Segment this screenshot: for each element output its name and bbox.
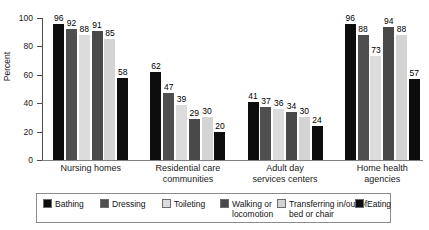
bar: [260, 107, 271, 160]
bar-value-label: 96: [340, 14, 361, 23]
chart-legend: BathingDressingToiletingWalking or locom…: [36, 193, 391, 223]
bar: [214, 132, 225, 160]
bar: [163, 93, 174, 160]
legend-swatch: [43, 199, 52, 208]
legend-item[interactable]: Dressing: [100, 199, 146, 209]
y-axis-tick: [37, 160, 42, 161]
bar: [370, 56, 381, 160]
bar-value-label: 58: [112, 68, 133, 77]
y-axis-tick-label: 100: [5, 14, 33, 22]
bar-value-label: 39: [171, 95, 192, 104]
bar-value-label: 30: [197, 107, 218, 116]
legend-swatch: [220, 199, 229, 208]
x-axis-category-label: Residential care communities: [133, 163, 243, 185]
bar: [79, 35, 90, 160]
legend-label: Eating: [367, 199, 391, 209]
bar: [286, 112, 297, 160]
x-axis-category-label: Nursing homes: [36, 163, 146, 174]
x-axis-category-label: Home health agencies: [327, 163, 429, 185]
legend-swatch: [162, 199, 171, 208]
legend-swatch: [100, 199, 109, 208]
bar: [248, 102, 259, 160]
bar: [66, 29, 77, 160]
legend-label: Toileting: [174, 199, 205, 209]
bar: [104, 39, 115, 160]
bar: [273, 109, 284, 160]
legend-item[interactable]: Walking or locomotion: [220, 199, 273, 219]
bar: [345, 24, 356, 160]
legend-label: Walking or locomotion: [232, 199, 273, 219]
bar: [117, 78, 128, 160]
bar-value-label: 62: [145, 62, 166, 71]
legend-label: Bathing: [55, 199, 84, 209]
bar-value-label: 85: [99, 29, 120, 38]
bar: [92, 31, 103, 160]
y-axis-tick-label: 20: [5, 128, 33, 136]
plot-area: 9692889185586247392930204137363430249688…: [42, 18, 423, 160]
bar: [189, 119, 200, 160]
legend-swatch: [277, 199, 286, 208]
bar-value-label: 57: [404, 69, 425, 78]
bar: [409, 79, 420, 160]
bar-chart-figure: 020406080100 Percent 9692889185586247392…: [0, 0, 429, 230]
legend-item[interactable]: Bathing: [43, 199, 84, 209]
bar-value-label: 47: [158, 83, 179, 92]
legend-swatch: [355, 199, 364, 208]
y-axis-tick-label: 0: [5, 156, 33, 164]
legend-item[interactable]: Toileting: [162, 199, 205, 209]
bar: [383, 27, 394, 160]
legend-item[interactable]: Eating: [355, 199, 391, 209]
x-axis-category-label: Adult day services centers: [230, 163, 340, 185]
bar-value-label: 20: [209, 122, 230, 131]
x-axis-line: [42, 160, 423, 161]
bar: [312, 126, 323, 160]
bar: [396, 35, 407, 160]
bar: [53, 24, 64, 160]
legend-label: Dressing: [112, 199, 146, 209]
y-axis-title: Percent: [3, 32, 12, 102]
bar-value-label: 24: [307, 116, 328, 125]
bar-value-label: 88: [353, 25, 374, 34]
legend-item[interactable]: Transferring in/out of bed or chair: [277, 199, 367, 219]
bar-value-label: 88: [391, 25, 412, 34]
